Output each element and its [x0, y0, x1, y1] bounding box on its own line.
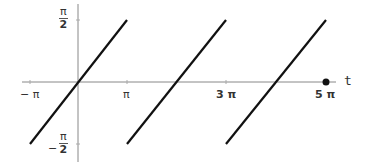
- tick-label-5pi: 5 π: [315, 88, 335, 101]
- x-axis-label: t: [344, 73, 352, 88]
- endpoint-dot: [323, 79, 330, 86]
- y-tick-label-top: π 2: [59, 6, 68, 31]
- y-bottom-denominator: 2: [59, 144, 68, 156]
- y-bottom-sign: −: [48, 142, 57, 155]
- y-top-denominator: 2: [59, 19, 68, 31]
- tick-label-pi: π: [123, 88, 130, 101]
- tick-label-neg-pi: − π: [20, 88, 39, 101]
- y-tick-label-bottom: π 2: [59, 131, 68, 156]
- tick-label-3pi: 3 π: [216, 88, 236, 101]
